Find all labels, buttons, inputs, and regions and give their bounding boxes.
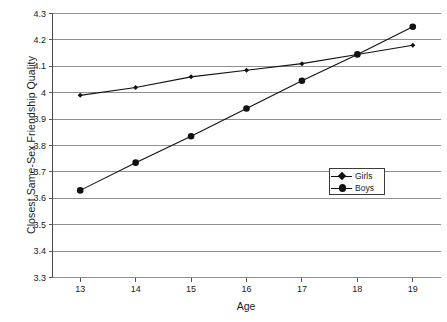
x-axis-title: Age [52, 300, 440, 312]
data-point-boys [243, 105, 250, 112]
data-point-boys [409, 23, 416, 30]
data-point-boys [299, 78, 306, 85]
data-point-girls [189, 74, 194, 79]
x-tick-label: 19 [398, 284, 428, 294]
data-point-girls [78, 93, 83, 98]
x-tick-label: 13 [65, 284, 95, 294]
x-axis-ticks [80, 278, 413, 282]
data-point-boys [354, 51, 361, 58]
x-tick-label: 15 [176, 284, 206, 294]
legend-label-girls: Girls [352, 171, 372, 182]
x-tick-label: 14 [121, 284, 151, 294]
legend-item-boys: Boys [330, 182, 384, 194]
legend-marker-boys-icon [331, 183, 352, 194]
data-point-boys [77, 187, 84, 194]
data-point-boys [132, 159, 139, 166]
data-point-girls [299, 61, 304, 66]
data-point-girls [133, 85, 138, 90]
plot-area [0, 0, 447, 322]
friendship-quality-line-chart: Closest Same-Sex Friendship Quality 3.33… [0, 0, 447, 322]
x-tick-label: 16 [232, 284, 262, 294]
legend-item-girls: Girls [330, 170, 384, 182]
x-tick-label: 18 [342, 284, 372, 294]
data-point-girls [244, 68, 249, 73]
data-point-girls [410, 43, 415, 48]
gridlines [53, 14, 441, 278]
x-tick-label: 17 [287, 284, 317, 294]
legend-marker-girls-icon [331, 171, 352, 182]
chart-legend: Girls Boys [329, 168, 385, 195]
data-point-boys [188, 133, 195, 140]
legend-label-boys: Boys [352, 183, 374, 194]
